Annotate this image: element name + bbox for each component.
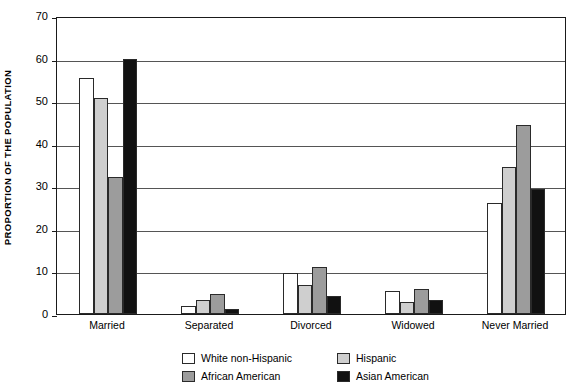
x-axis-label-never-married: Never Married [464, 319, 566, 331]
bar-group [79, 18, 137, 314]
legend-item-white-non-hispanic[interactable]: White non-Hispanic [182, 351, 292, 366]
x-axis-label-married: Married [56, 319, 158, 331]
bar [298, 285, 313, 314]
y-axis-tick-20: 20 [18, 224, 48, 235]
bar [94, 98, 109, 314]
bar-group [181, 18, 239, 314]
legend-item-asian-american[interactable]: Asian American [337, 369, 429, 384]
bar [225, 309, 240, 314]
legend-label: White non-Hispanic [201, 353, 292, 364]
bar-group [283, 18, 341, 314]
x-axis-label-divorced: Divorced [260, 319, 362, 331]
legend-swatch-icon [337, 371, 350, 382]
y-axis-tick-30: 30 [18, 181, 48, 192]
y-axis-tick-0: 0 [18, 309, 48, 320]
chart-legend: White non-HispanicHispanicAfrican Americ… [182, 351, 512, 387]
y-axis-tick-40: 40 [18, 139, 48, 150]
legend-swatch-icon [182, 371, 195, 382]
legend-item-hispanic[interactable]: Hispanic [337, 351, 396, 366]
bar [79, 78, 94, 314]
bar [196, 300, 211, 314]
y-axis-title-text: PROPORTION OF THE POPULATION [3, 70, 14, 245]
x-axis-label-separated: Separated [158, 319, 260, 331]
bar-group [487, 18, 545, 314]
bar [108, 177, 123, 315]
bar [516, 125, 531, 314]
bar [414, 289, 429, 314]
y-axis-tick-70: 70 [18, 11, 48, 22]
bar [400, 302, 415, 314]
bar [123, 59, 138, 314]
bar [327, 296, 342, 314]
bar [502, 167, 517, 314]
bar [283, 273, 298, 314]
legend-swatch-icon [337, 353, 350, 364]
bar [181, 306, 196, 314]
plot-area [56, 17, 566, 315]
y-axis-tick-60: 60 [18, 54, 48, 65]
legend-label: Hispanic [356, 353, 396, 364]
legend-swatch-icon [182, 353, 195, 364]
bar [385, 291, 400, 314]
y-axis-tick-10: 10 [18, 266, 48, 277]
y-axis-title: PROPORTION OF THE POPULATION [0, 0, 16, 315]
bar [312, 267, 327, 314]
bar-layer [57, 18, 565, 314]
legend-item-african-american[interactable]: African American [182, 369, 280, 384]
legend-label: African American [201, 371, 280, 382]
y-axis-tick-50: 50 [18, 96, 48, 107]
y-axis-tickmark [52, 316, 57, 317]
bar [210, 294, 225, 314]
bar-group [385, 18, 443, 314]
bar [487, 203, 502, 314]
bar [531, 189, 546, 314]
bar [429, 300, 444, 314]
legend-label: Asian American [356, 371, 429, 382]
x-axis-label-widowed: Widowed [362, 319, 464, 331]
bar-chart: PROPORTION OF THE POPULATION 01020304050… [0, 0, 574, 391]
